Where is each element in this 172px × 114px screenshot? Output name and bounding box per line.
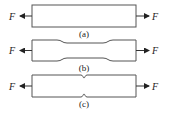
caption-b: (b) <box>79 63 90 73</box>
notched-bar <box>32 75 136 97</box>
plain-bar <box>32 5 136 27</box>
force-label-right: F <box>151 11 159 22</box>
force-label-left: F <box>8 45 16 56</box>
force-label-right: F <box>151 81 159 92</box>
force-label-left: F <box>8 81 16 92</box>
force-label-right: F <box>151 45 159 56</box>
panel-c: F F (c) <box>8 75 159 109</box>
tensile-specimens-diagram: F F (a) F F (b) F F (c) <box>0 0 172 114</box>
caption-c: (c) <box>79 99 89 109</box>
necked-specimen <box>32 40 136 61</box>
panel-b: F F (b) <box>8 40 159 73</box>
force-label-left: F <box>8 11 16 22</box>
panel-a: F F (a) <box>8 5 159 39</box>
caption-a: (a) <box>79 29 89 39</box>
